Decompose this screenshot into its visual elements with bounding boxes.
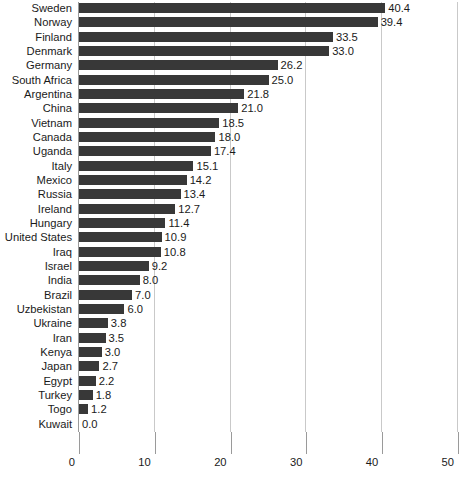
bar-row: United States10.9 <box>0 231 467 245</box>
x-tick-label-40: 40 <box>328 456 378 468</box>
bar-row: India8.0 <box>0 274 467 288</box>
bar-row: China21.0 <box>0 102 467 116</box>
bar-value-label: 10.9 <box>165 231 187 245</box>
bar-row: Sweden40.4 <box>0 2 467 16</box>
bar-row: Canada18.0 <box>0 131 467 145</box>
bar-value-label: 14.2 <box>190 174 212 188</box>
category-label: India <box>0 274 72 288</box>
bar-row: Denmark33.0 <box>0 45 467 59</box>
bar-value-label: 7.0 <box>135 289 151 303</box>
category-label: United States <box>0 231 72 245</box>
bar <box>79 189 181 199</box>
x-tick-mark-0 <box>79 432 80 454</box>
bar-value-label: 26.2 <box>281 59 303 73</box>
x-tick-label-50: 50 <box>404 456 454 468</box>
category-label: Turkey <box>0 389 72 403</box>
bar-value-label: 17.4 <box>214 145 236 159</box>
bar-row: Germany26.2 <box>0 59 467 73</box>
category-label: Uzbekistan <box>0 303 72 317</box>
bar <box>79 17 378 27</box>
bar-row: Brazil7.0 <box>0 289 467 303</box>
bar-row: Turkey1.8 <box>0 389 467 403</box>
bar-row: Kuwait0.0 <box>0 418 467 432</box>
bar <box>79 347 102 357</box>
bar-value-label: 33.0 <box>332 45 354 59</box>
bar <box>79 89 244 99</box>
bar-row: Norway39.4 <box>0 16 467 30</box>
bar-row: Israel9.2 <box>0 260 467 274</box>
bar-value-label: 18.5 <box>222 117 244 131</box>
bar <box>79 3 385 13</box>
category-label: Denmark <box>0 45 72 59</box>
category-label: Iraq <box>0 246 72 260</box>
bar-value-label: 11.4 <box>168 217 189 231</box>
bar-row: Togo1.2 <box>0 403 467 417</box>
bar-value-label: 21.0 <box>241 102 263 116</box>
bar-row: Uganda17.4 <box>0 145 467 159</box>
x-tick-label-10: 10 <box>101 456 151 468</box>
bar <box>79 161 193 171</box>
category-label: Canada <box>0 131 72 145</box>
bar <box>79 132 215 142</box>
bar <box>79 146 211 156</box>
bar-value-label: 9.2 <box>152 260 168 274</box>
bar-row: Russia13.4 <box>0 188 467 202</box>
bar <box>79 290 132 300</box>
bar <box>79 218 165 228</box>
category-label: Russia <box>0 188 72 202</box>
x-tick-mark-10 <box>155 432 156 454</box>
x-tick-mark-30 <box>306 432 307 454</box>
bar-value-label: 25.0 <box>272 74 294 88</box>
bar <box>79 261 149 271</box>
bar-row: Vietnam18.5 <box>0 117 467 131</box>
bar-value-label: 13.4 <box>184 188 206 202</box>
bar-row: Uzbekistan6.0 <box>0 303 467 317</box>
bar-row: Kenya3.0 <box>0 346 467 360</box>
bar-value-label: 1.8 <box>96 389 112 403</box>
bar-row: Egypt2.2 <box>0 375 467 389</box>
category-label: Italy <box>0 160 72 174</box>
bar <box>79 118 219 128</box>
category-label: Uganda <box>0 145 72 159</box>
bar <box>79 404 88 414</box>
category-label: Kuwait <box>0 418 72 432</box>
bar-value-label: 39.4 <box>381 16 403 30</box>
bar-value-label: 3.0 <box>105 346 121 360</box>
category-label: Brazil <box>0 289 72 303</box>
x-tick-mark-50 <box>458 432 459 454</box>
x-tick-label-0: 0 <box>25 456 75 468</box>
category-label: Kenya <box>0 346 72 360</box>
bar <box>79 32 333 42</box>
bar-row: Ireland12.7 <box>0 203 467 217</box>
category-label: China <box>0 102 72 116</box>
bar <box>79 60 278 70</box>
bar-row: Italy15.1 <box>0 160 467 174</box>
category-label: Japan <box>0 360 72 374</box>
bar-value-label: 12.7 <box>178 203 200 217</box>
x-tick-label-30: 30 <box>252 456 302 468</box>
bar <box>79 390 93 400</box>
bar-rows: Sweden40.4Norway39.4Finland33.5Denmark33… <box>0 2 467 432</box>
bar-row: Iraq10.8 <box>0 246 467 260</box>
bar <box>79 275 140 285</box>
bar <box>79 103 238 113</box>
bar-value-label: 1.2 <box>91 403 107 417</box>
bar <box>79 175 187 185</box>
bar <box>79 204 175 214</box>
category-label: Hungary <box>0 217 72 231</box>
x-tick-mark-20 <box>231 432 232 454</box>
category-label: Israel <box>0 260 72 274</box>
category-label: Togo <box>0 403 72 417</box>
bar <box>79 376 96 386</box>
bar-row: Hungary11.4 <box>0 217 467 231</box>
bar-row: Ukraine3.8 <box>0 317 467 331</box>
category-label: Germany <box>0 59 72 73</box>
bar-value-label: 6.0 <box>127 303 143 317</box>
bar <box>79 46 329 56</box>
bar <box>79 247 161 257</box>
bar-value-label: 18.0 <box>218 131 240 145</box>
bar <box>79 318 108 328</box>
bar-value-label: 2.2 <box>99 375 115 389</box>
x-tick-mark-40 <box>382 432 383 454</box>
bar-row: Finland33.5 <box>0 31 467 45</box>
